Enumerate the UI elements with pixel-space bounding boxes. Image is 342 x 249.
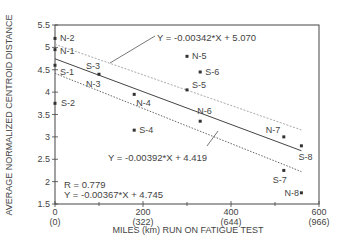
data-point — [54, 37, 57, 40]
leader-line-upper — [110, 36, 155, 63]
y-tick-label: 4.5 — [37, 65, 50, 75]
data-point — [54, 102, 57, 105]
point-label: N-8 — [284, 188, 299, 198]
equation-upper: Y = -0.00342*X + 5.070 — [157, 32, 256, 43]
data-point — [54, 64, 57, 67]
data-point — [133, 93, 136, 96]
point-label: S-7 — [273, 175, 287, 185]
point-label: N-4 — [136, 98, 151, 108]
regression-line — [55, 59, 301, 151]
x-axis-label: MILES (km) RUN ON FATIGUE TEST — [112, 225, 264, 235]
x-tick-label: 400 — [223, 207, 238, 217]
point-label: S-8 — [298, 152, 312, 162]
data-point — [300, 144, 303, 147]
y-tick-label: 2.5 — [37, 154, 50, 164]
point-label: N-2 — [60, 33, 75, 43]
data-point — [54, 48, 57, 51]
x-tick-label: 600 — [311, 207, 326, 217]
y-tick-label: 3.5 — [37, 110, 50, 120]
data-point — [186, 55, 189, 58]
point-label: S-2 — [61, 98, 75, 108]
point-label: N-5 — [192, 51, 207, 61]
point-label: S-5 — [192, 80, 206, 90]
x-tick-sublabel: (966) — [308, 217, 329, 227]
x-tick-label: 200 — [135, 207, 150, 217]
point-label: N-1 — [60, 46, 75, 56]
y-tick-label: 3 — [45, 132, 50, 142]
point-label: N-6 — [197, 106, 212, 116]
equation-mid: Y = -0.00367*X + 4.745 — [64, 189, 163, 200]
point-label: S-1 — [60, 67, 74, 77]
data-point — [98, 73, 101, 76]
data-point — [199, 70, 202, 73]
y-tick-label: 2 — [45, 177, 50, 187]
point-label: S-6 — [205, 67, 219, 77]
point-label: N-7 — [266, 125, 281, 135]
scatter-chart: 1.522.533.544.555.50(0)200(322)400(644)6… — [0, 0, 342, 249]
point-label: S-3 — [86, 61, 100, 71]
data-point — [282, 169, 285, 172]
point-label: S-4 — [139, 125, 153, 135]
y-axis-label: AVERAGE NORMALIZED CENTROID DISTANCE — [4, 14, 14, 215]
y-tick-label: 5.5 — [37, 20, 50, 30]
y-tick-label: 1.5 — [37, 199, 50, 209]
y-tick-label: 5 — [45, 42, 50, 52]
equation-lower: Y = -0.00392*X + 4.419 — [108, 152, 207, 163]
data-point — [282, 135, 285, 138]
data-point — [186, 88, 189, 91]
leader-line-lower — [207, 131, 218, 146]
x-tick-label: 0 — [52, 207, 57, 217]
data-point — [199, 120, 202, 123]
x-tick-sublabel: (0) — [50, 217, 61, 227]
data-points: N-2N-1S-1S-2S-3N-3N-4S-4N-5S-6S-5N-6N-7S… — [54, 33, 313, 197]
data-point — [133, 129, 136, 132]
data-point — [300, 191, 303, 194]
point-label: N-3 — [86, 79, 101, 89]
y-tick-label: 4 — [45, 87, 50, 97]
